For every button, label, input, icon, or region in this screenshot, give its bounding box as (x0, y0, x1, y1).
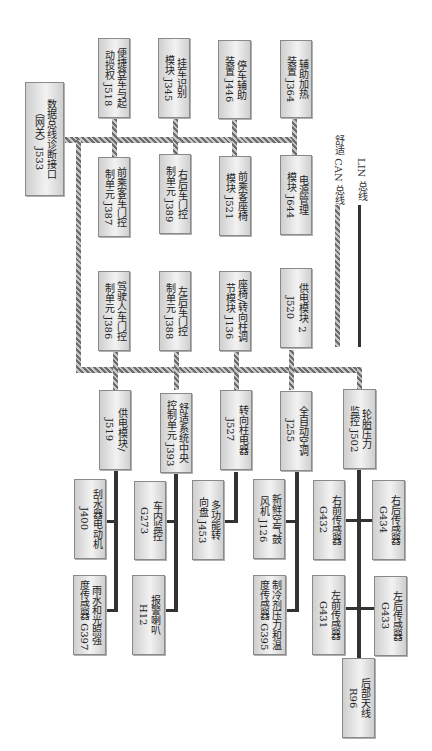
device-g395: 制冷剂压力和温 度传感器 G395 (253, 575, 286, 655)
box-label: 车内监控 G273 (138, 501, 162, 541)
module-j387: 前乘客车门控 制单元 J387 (98, 157, 130, 237)
box-label: 左前传感器 G431 (317, 590, 341, 640)
box-label: 舒适系统中央 控制单元 J393 (164, 400, 188, 466)
box-label: 后部天线 R96 (347, 678, 371, 718)
box-label: 便捷登车与起 动授权 J518 (102, 48, 126, 108)
box-label: 报警喇叭 H12 (137, 595, 161, 635)
box-label: 辅助加热 装置 J364 (284, 56, 308, 102)
device-j400: 刮水器电动机 J400 (74, 479, 106, 559)
lin-bus-j255 (295, 470, 299, 612)
box-label: 供电模块/ J519 (103, 408, 127, 451)
box-label: 左后传感器 G433 (379, 591, 403, 641)
device-g431: 左前传感器 G431 (312, 575, 345, 655)
module-j389: 右后车门控 制单元 J389 (159, 154, 191, 234)
can-bus-j502-drop (357, 367, 362, 390)
box-label: 左后车门控 制单元 J388 (163, 283, 187, 339)
lin-stub (345, 519, 373, 522)
can-bus-main-vertical (76, 140, 81, 373)
module-j364: 辅助加热 装置 J364 (280, 40, 312, 118)
can-stub (234, 350, 239, 390)
device-g273: 车内监控 G273 (134, 481, 166, 560)
box-label: 前乘客座椅 模块 J521 (223, 171, 247, 221)
device-j126: 新鲜空气鼓 风机 J126 (253, 479, 285, 559)
device-g434: 右后传感器 G434 (372, 480, 405, 560)
gateway-j533: 数据总线诊断接口 （网关）J533 (25, 82, 64, 196)
device-g432: 右前传感器 G432 (313, 480, 345, 560)
module-j386: 驾驶人车门控 制单元 J386 (98, 271, 130, 351)
module-j527: 转向柱电器 J527 (220, 390, 252, 470)
can-stub (289, 350, 294, 390)
lin-stub (285, 609, 297, 612)
can-stub (292, 118, 297, 157)
box-label: 全自动空调 J255 (284, 406, 308, 456)
module-j521: 前乘客座椅 模块 J521 (219, 156, 251, 236)
module-j502: 轮胎压力 监控 J502 (343, 389, 376, 469)
box-label: 右后车门控 制单元 J389 (163, 166, 187, 222)
box-label: 数据总线诊断接口 （网关）J533 (33, 99, 57, 179)
box-label: 座椅/转向柱调 节模块 J136 (223, 279, 247, 342)
device-g397: 雨水和光照强 度传感器 G397 (73, 575, 106, 655)
can-stub (113, 350, 118, 390)
lin-bus-j519 (114, 470, 118, 612)
module-j388: 左后车门控 制单元 J388 (159, 271, 191, 351)
lin-bus-j502 (357, 470, 361, 658)
module-j644: 电源管理 模块 J644 (280, 155, 312, 235)
box-label: 制冷剂压力和温 度传感器 G395 (258, 580, 282, 650)
lin-stub (165, 520, 175, 523)
legend-can-label: 舒适 CAN 总线 (331, 135, 346, 205)
can-stub (174, 350, 179, 390)
lin-stub (165, 609, 175, 612)
can-stub (173, 118, 178, 157)
can-bus-bottom-horizontal (76, 367, 361, 373)
box-label: 电源管理 模块 J644 (284, 172, 308, 218)
device-h12: 报警喇叭 H12 (132, 575, 165, 655)
legend-lin-line (358, 205, 361, 347)
can-stub (232, 118, 237, 157)
box-label: 轮胎压力 监控 J502 (348, 406, 372, 452)
box-label: 停车辅助 装置 J446 (223, 56, 247, 102)
device-r96: 后部天线 R96 (342, 658, 375, 738)
box-label: 多功能转 向盘 J453 (196, 497, 220, 543)
legend-can-line (335, 205, 340, 347)
box-label: 供电模块 2 J520 (284, 283, 308, 333)
can-stub (112, 118, 117, 157)
module-j519: 供电模块/ J519 (99, 390, 131, 470)
box-label: 右前传感器 G432 (317, 495, 341, 545)
box-label: 转向柱电器 J527 (224, 405, 248, 455)
box-label: 新鲜空气鼓 风机 J126 (257, 494, 281, 544)
device-j453: 多功能转 向盘 J453 (192, 480, 224, 560)
can-bus-top-horizontal (64, 137, 294, 143)
lin-stub (106, 520, 116, 523)
box-label: 驾驶人车门控 制单元 J386 (102, 281, 126, 341)
box-label: 右后传感器 G434 (377, 495, 401, 545)
module-j520: 供电模块 2 J520 (280, 268, 312, 348)
module-j393: 舒适系统中央 控制单元 J393 (160, 393, 192, 473)
module-j136: 座椅/转向柱调 节模块 J136 (219, 271, 251, 351)
box-label: 挂车识别 模块 J345 (162, 55, 186, 101)
box-label: 雨水和光照强 度传感器 G397 (78, 580, 102, 650)
module-j518: 便捷登车与起 动授权 J518 (98, 38, 130, 118)
lin-stub (106, 609, 116, 612)
lin-bus-j527 (234, 472, 238, 523)
lin-stub (285, 520, 297, 523)
box-label: 刮水器电动机 J400 (78, 489, 102, 549)
box-label: 前乘客车门控 制单元 J387 (102, 167, 126, 227)
legend-lin-label: LIN 总线 (354, 158, 369, 201)
module-j446: 停车辅助 装置 J446 (218, 40, 251, 119)
lin-stub (224, 520, 236, 523)
device-g433: 左后传感器 G433 (374, 576, 407, 656)
lin-bus-j393 (174, 472, 178, 612)
module-j345: 挂车识别 模块 J345 (158, 38, 190, 118)
module-j255: 全自动空调 J255 (280, 391, 312, 471)
lin-stub (345, 607, 375, 610)
